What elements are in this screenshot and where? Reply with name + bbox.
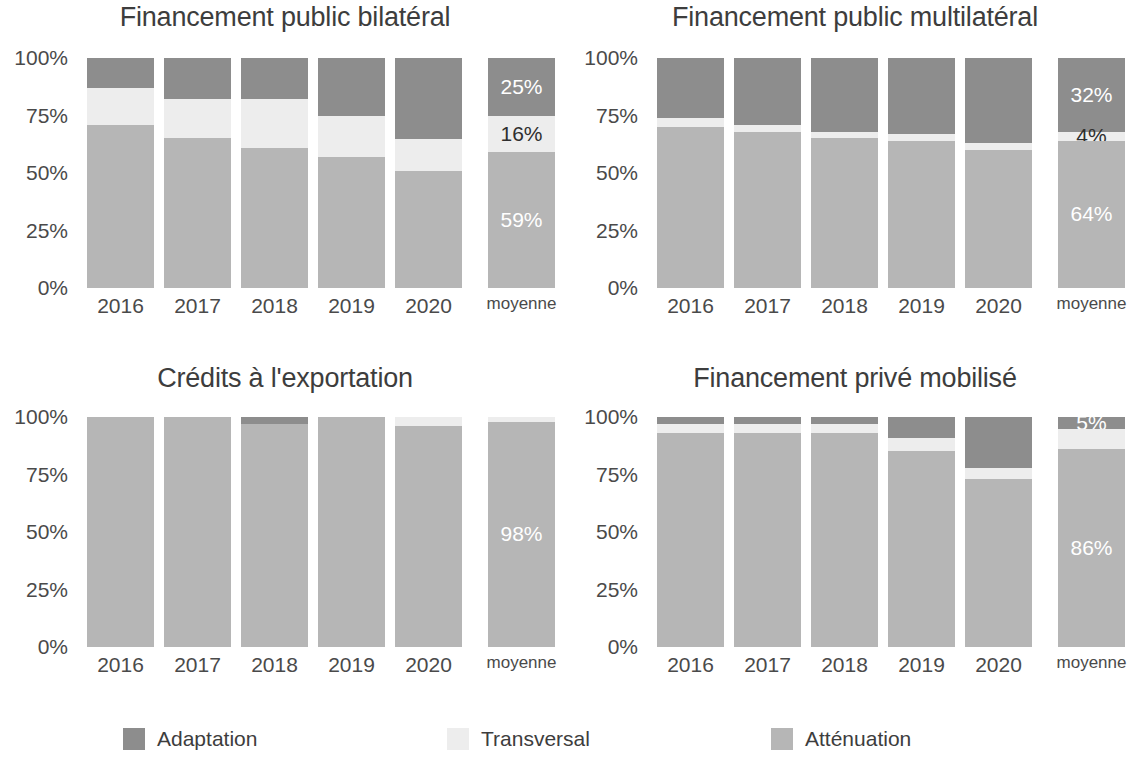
y-axis-labels: 0%25%50%75%100% [0,417,72,647]
bar-segment-adaptation [811,58,879,132]
bar-segment-attenuation [734,132,802,288]
bar-segment-attenuation [965,150,1033,288]
panel-financement-public-bilateral: Financement public bilatéral 0%25%50%75%… [0,0,570,345]
legend-label: Adaptation [157,727,257,751]
stacked-bar [241,58,309,288]
x-tick-label: 2018 [821,653,868,677]
bar-segment-value-label: 59% [488,208,556,232]
y-tick-label: 0% [608,635,638,659]
x-tick-label: 2018 [251,294,298,318]
x-tick-label: 2019 [898,653,945,677]
stacked-bar-average: 98% [488,417,556,647]
bar-segment-value-label: 25% [488,75,556,99]
bar-segment-adaptation: 32% [1058,58,1126,132]
bar-segment-attenuation [657,127,725,288]
bar-segment-attenuation [888,141,956,288]
bar-segment-adaptation [734,58,802,125]
bar-segment-attenuation [734,433,802,647]
bar-segment-attenuation [965,479,1033,647]
bar-segment-attenuation: 86% [1058,449,1126,647]
bar-segment-adaptation [888,417,956,438]
stacked-bar [811,58,879,288]
panel-title: Financement privé mobilisé [570,363,1140,394]
bar-segment-attenuation [164,138,232,288]
bar-segment-attenuation [318,417,386,647]
stacked-bar [965,58,1033,288]
plot-area: 5%86% [652,417,1130,647]
panel-credits-a-l-exportation: Crédits à l'exportation 0%25%50%75%100% … [0,345,570,690]
stacked-bar [657,417,725,647]
bar-segment-attenuation [87,125,155,288]
y-axis-labels: 0%25%50%75%100% [570,417,642,647]
legend-item-attenuation[interactable]: Atténuation [723,727,1047,751]
stacked-bar [87,417,155,647]
stacked-bar [888,58,956,288]
bar-segment-transversal [888,134,956,141]
stacked-bar-average: 25%16%59% [488,58,556,288]
bar-segment-adaptation: 25% [488,58,556,116]
y-tick-label: 25% [26,219,68,243]
legend-item-adaptation[interactable]: Adaptation [93,727,399,751]
bar-segment-attenuation [164,417,232,647]
x-tick-label: 2018 [251,653,298,677]
stacked-bar-average: 32%4%64% [1058,58,1126,288]
bar-segment-transversal [965,143,1033,150]
stacked-bar [318,58,386,288]
x-tick-label: 2017 [744,653,791,677]
bar-segment-transversal: 4% [1058,132,1126,141]
x-axis-labels: 20162017201820192020moyenne [82,294,560,320]
x-tick-label: 2016 [97,294,144,318]
y-axis-labels: 0%25%50%75%100% [0,58,72,288]
x-tick-label: 2017 [174,653,221,677]
bar-segment-transversal [734,424,802,433]
bar-segment-attenuation [241,424,309,647]
bar-segment-adaptation [965,58,1033,143]
y-axis-labels: 0%25%50%75%100% [570,58,642,288]
bar-segment-adaptation [657,417,725,424]
x-tick-label-average: moyenne [1057,653,1127,673]
stacked-bar [395,58,463,288]
bar-segment-transversal [888,438,956,452]
y-tick-label: 25% [26,578,68,602]
legend-swatch-attenuation-icon [771,728,793,750]
x-tick-label: 2018 [821,294,868,318]
bar-segment-value-label: 32% [1058,83,1126,107]
x-tick-label: 2020 [405,294,452,318]
bar-segment-value-label: 64% [1058,202,1126,226]
bar-segment-transversal [395,417,463,426]
y-tick-label: 75% [596,463,638,487]
x-axis-labels: 20162017201820192020moyenne [82,653,560,679]
bar-segment-value-label: 86% [1058,536,1126,560]
y-tick-label: 75% [26,463,68,487]
y-tick-label: 50% [26,520,68,544]
stacked-bar [965,417,1033,647]
bar-segment-attenuation: 98% [488,422,556,647]
bar-segment-transversal [241,99,309,147]
bar-segment-transversal [657,118,725,127]
panel-title: Crédits à l'exportation [0,363,570,394]
x-tick-label: 2016 [97,653,144,677]
bar-segment-attenuation [395,426,463,647]
x-tick-label: 2020 [975,653,1022,677]
stacked-bar [734,417,802,647]
y-tick-label: 0% [608,276,638,300]
x-tick-label: 2019 [328,294,375,318]
bars-container: 5%86% [652,417,1130,647]
legend-label: Atténuation [805,727,911,751]
y-tick-label: 0% [38,635,68,659]
x-axis-labels: 20162017201820192020moyenne [652,294,1130,320]
stacked-bar [811,417,879,647]
x-tick-label-average: moyenne [487,294,557,314]
legend-item-transversal[interactable]: Transversal [399,727,723,751]
charts-grid: Financement public bilatéral 0%25%50%75%… [0,0,1140,700]
stacked-bar [888,417,956,647]
panel-title: Financement public multilatéral [570,2,1140,33]
panel-financement-prive-mobilise: Financement privé mobilisé 0%25%50%75%10… [570,345,1140,690]
bar-segment-attenuation [657,433,725,647]
legend-label: Transversal [481,727,590,751]
bars-container: 25%16%59% [82,58,560,288]
y-tick-label: 100% [584,46,638,70]
bar-segment-adaptation [395,58,463,139]
bar-segment-adaptation [241,58,309,99]
bar-segment-transversal [734,125,802,132]
